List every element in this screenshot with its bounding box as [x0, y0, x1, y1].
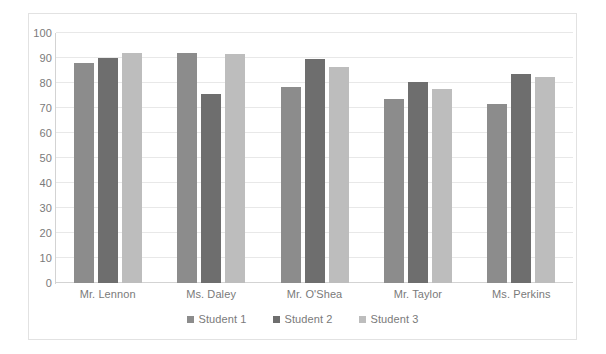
- bar: [329, 67, 349, 283]
- bar: [511, 74, 531, 283]
- bar: [305, 59, 325, 283]
- bar: [74, 63, 94, 283]
- bar: [281, 87, 301, 283]
- y-axis-tick-label: 10: [40, 252, 52, 264]
- x-axis-category-label: Mr. Taylor: [394, 288, 442, 300]
- legend-label: Student 3: [371, 313, 419, 325]
- legend-item[interactable]: Student 3: [359, 313, 419, 325]
- x-axis-category-labels: Mr. LennonMs. DaleyMr. O'SheaMr. TaylorM…: [56, 288, 573, 306]
- bar-chart: 0102030405060708090100 Mr. LennonMs. Dal…: [0, 0, 606, 354]
- y-axis-tick-label: 20: [40, 227, 52, 239]
- bar: [432, 89, 452, 283]
- bar: [487, 104, 507, 283]
- bar-group: [487, 33, 555, 283]
- bar-group: [281, 33, 349, 283]
- plot-area: [56, 33, 573, 283]
- bar: [98, 58, 118, 283]
- bar: [201, 94, 221, 283]
- x-axis-category-label: Ms. Daley: [186, 288, 236, 300]
- legend-item[interactable]: Student 2: [273, 313, 333, 325]
- x-axis-category-label: Mr. O'Shea: [287, 288, 343, 300]
- legend-swatch-icon: [187, 316, 194, 323]
- y-axis-tick-label: 80: [40, 77, 52, 89]
- y-axis-tick-label: 50: [40, 152, 52, 164]
- chart-legend: Student 1Student 2Student 3: [28, 313, 577, 325]
- y-axis-tick-label: 40: [40, 177, 52, 189]
- x-axis-category-label: Mr. Lennon: [80, 288, 136, 300]
- bar: [408, 82, 428, 283]
- bar: [535, 77, 555, 283]
- legend-swatch-icon: [359, 316, 366, 323]
- y-axis-tick-label: 60: [40, 127, 52, 139]
- bar: [122, 53, 142, 283]
- legend-swatch-icon: [273, 316, 280, 323]
- y-axis-tick-label: 90: [40, 52, 52, 64]
- y-axis-tick-labels: 0102030405060708090100: [28, 33, 52, 283]
- bar-group: [384, 33, 452, 283]
- bar-group: [74, 33, 142, 283]
- bar: [384, 99, 404, 283]
- bar: [225, 54, 245, 283]
- y-axis-tick-label: 70: [40, 102, 52, 114]
- bar: [177, 53, 197, 283]
- y-axis-tick-label: 100: [33, 27, 52, 39]
- legend-label: Student 2: [285, 313, 333, 325]
- bar-group: [177, 33, 245, 283]
- y-axis-tick-label: 0: [46, 277, 52, 289]
- bars-layer: [56, 33, 573, 283]
- legend-label: Student 1: [199, 313, 247, 325]
- legend-item[interactable]: Student 1: [187, 313, 247, 325]
- y-axis-tick-label: 30: [40, 202, 52, 214]
- x-axis-category-label: Ms. Perkins: [492, 288, 551, 300]
